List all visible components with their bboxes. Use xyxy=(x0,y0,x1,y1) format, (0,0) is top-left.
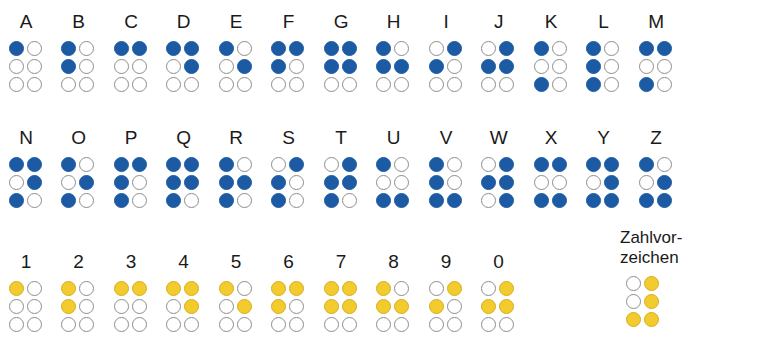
braille-dot-4-empty xyxy=(79,281,94,296)
braille-dot-1-filled xyxy=(639,41,654,56)
braille-cell-label-A: A xyxy=(20,12,33,34)
braille-dot-1-empty xyxy=(481,281,496,296)
braille-dot-1-filled xyxy=(61,157,76,172)
braille-dot-3-filled xyxy=(429,193,444,208)
braille-dot-6-empty xyxy=(79,77,94,92)
braille-dot-6-empty xyxy=(499,317,514,332)
braille-dot-grid xyxy=(114,41,149,94)
braille-dot-1-filled xyxy=(9,41,24,56)
braille-dot-4-filled xyxy=(604,157,619,172)
braille-dot-4-empty xyxy=(552,41,567,56)
braille-cell-X: X xyxy=(525,128,578,210)
braille-dot-1-filled xyxy=(586,41,601,56)
braille-dot-grid xyxy=(114,157,149,210)
braille-cell-label-U: U xyxy=(387,128,401,150)
braille-dot-4-filled xyxy=(184,281,199,296)
braille-dot-2-empty xyxy=(639,59,654,74)
braille-dot-grid xyxy=(376,157,411,210)
braille-dot-grid xyxy=(429,41,464,94)
braille-dot-2-filled xyxy=(324,59,339,74)
braille-dot-3-filled xyxy=(166,193,181,208)
braille-dot-grid xyxy=(219,281,254,334)
braille-dot-4-empty xyxy=(394,157,409,172)
braille-dot-grid xyxy=(639,157,674,210)
braille-dot-3-filled xyxy=(534,77,549,92)
braille-dot-grid xyxy=(166,157,201,210)
braille-dot-3-empty xyxy=(324,77,339,92)
braille-cell-label-I: I xyxy=(444,12,449,34)
braille-cell-3: 3 xyxy=(105,252,158,334)
braille-row-letters-1: ABCDEFGHIJKLM xyxy=(0,12,758,94)
braille-cell-W: W xyxy=(473,128,526,210)
braille-cell-label-M: M xyxy=(648,12,664,34)
braille-dot-4-empty xyxy=(657,157,672,172)
braille-dot-2-filled xyxy=(481,175,496,190)
braille-dot-4-filled xyxy=(447,281,462,296)
braille-dot-4-filled xyxy=(184,157,199,172)
braille-dot-1-filled xyxy=(324,281,339,296)
braille-dot-2-empty xyxy=(9,299,24,314)
braille-cell-label-5: 5 xyxy=(231,252,242,274)
braille-dot-3-empty xyxy=(9,317,24,332)
braille-cell-O: O xyxy=(53,128,106,210)
braille-cell-Q: Q xyxy=(158,128,211,210)
braille-cell-label-3: 3 xyxy=(126,252,137,274)
braille-cell-label-L: L xyxy=(598,12,609,34)
braille-cell-label-C: C xyxy=(124,12,138,34)
braille-dot-5-filled xyxy=(499,175,514,190)
braille-dot-grid xyxy=(376,281,411,334)
braille-dot-4-filled xyxy=(27,157,42,172)
braille-cell-label-X: X xyxy=(545,128,558,150)
number-sign-block: Zahlvor- zeichen xyxy=(620,228,740,329)
braille-dot-5-filled xyxy=(499,59,514,74)
braille-dot-3-empty xyxy=(481,193,496,208)
braille-dot-3-filled xyxy=(114,193,129,208)
braille-dot-2-filled xyxy=(61,299,76,314)
braille-dot-2-empty xyxy=(114,299,129,314)
braille-dot-5-filled xyxy=(394,299,409,314)
braille-dot-1-filled xyxy=(271,41,286,56)
braille-dot-2-empty xyxy=(9,59,24,74)
braille-cell-B: B xyxy=(53,12,106,94)
braille-dot-6-empty xyxy=(394,77,409,92)
braille-dot-4-filled xyxy=(552,157,567,172)
braille-dot-5-filled xyxy=(184,175,199,190)
braille-dot-grid xyxy=(9,157,44,210)
braille-dot-grid xyxy=(481,281,516,334)
braille-dot-2-filled xyxy=(166,175,181,190)
braille-dot-5-filled xyxy=(342,299,357,314)
braille-cell-label-O: O xyxy=(71,128,86,150)
braille-dot-6-empty xyxy=(132,317,147,332)
braille-dot-1-filled xyxy=(219,41,234,56)
braille-dot-1-empty xyxy=(429,41,444,56)
braille-dot-5-empty xyxy=(447,299,462,314)
braille-cell-2: 2 xyxy=(53,252,106,334)
braille-dot-4-filled xyxy=(342,157,357,172)
braille-dot-2-empty xyxy=(9,175,24,190)
number-sign-label: Zahlvor- zeichen xyxy=(620,228,740,268)
braille-dot-2-filled xyxy=(376,59,391,74)
braille-dot-1-filled xyxy=(376,281,391,296)
braille-dot-3-empty xyxy=(271,317,286,332)
number-sign-label-line2: zeichen xyxy=(620,248,679,267)
braille-dot-2-empty xyxy=(166,59,181,74)
braille-dot-4-filled xyxy=(447,41,462,56)
braille-dot-grid xyxy=(324,41,359,94)
braille-dot-6-empty xyxy=(552,77,567,92)
braille-dot-2-filled xyxy=(481,59,496,74)
braille-dot-3-empty xyxy=(481,77,496,92)
braille-dot-2-filled xyxy=(429,299,444,314)
braille-dot-5-filled xyxy=(79,175,94,190)
braille-dot-grid xyxy=(586,41,621,94)
braille-dot-2-filled xyxy=(324,175,339,190)
braille-dot-2-filled xyxy=(429,59,444,74)
braille-dot-1-filled xyxy=(114,157,129,172)
braille-dot-3-filled xyxy=(626,312,641,327)
braille-dot-1-filled xyxy=(9,281,24,296)
braille-dot-5-empty xyxy=(604,59,619,74)
braille-alphabet-chart: ABCDEFGHIJKLM NOPQRSTUVWXYZ 1234567890 Z… xyxy=(0,0,758,356)
braille-cell-label-N: N xyxy=(19,128,33,150)
braille-dot-2-empty xyxy=(166,299,181,314)
braille-dot-2-filled xyxy=(271,59,286,74)
braille-dot-grid xyxy=(9,281,44,334)
